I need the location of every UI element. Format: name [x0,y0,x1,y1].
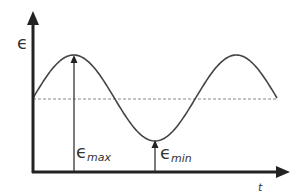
strain-time-diagram: ϵ t ϵmax ϵmin [0,0,308,196]
sine-curve [33,55,277,141]
y-axis-arrow-icon [27,11,39,25]
x-axis [32,166,290,178]
x-axis-label: t [258,181,263,194]
min-label: ϵmin [160,142,192,165]
x-axis-arrow-icon [276,166,290,178]
max-label: ϵmax [76,141,112,164]
min-amplitude-arrow [152,140,159,172]
y-axis-label: ϵ [17,32,28,53]
